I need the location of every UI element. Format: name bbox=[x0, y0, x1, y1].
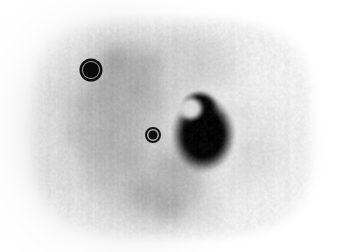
nuclear-medicine-scan-image bbox=[0, 0, 338, 252]
scan-image-viewport bbox=[0, 0, 338, 252]
